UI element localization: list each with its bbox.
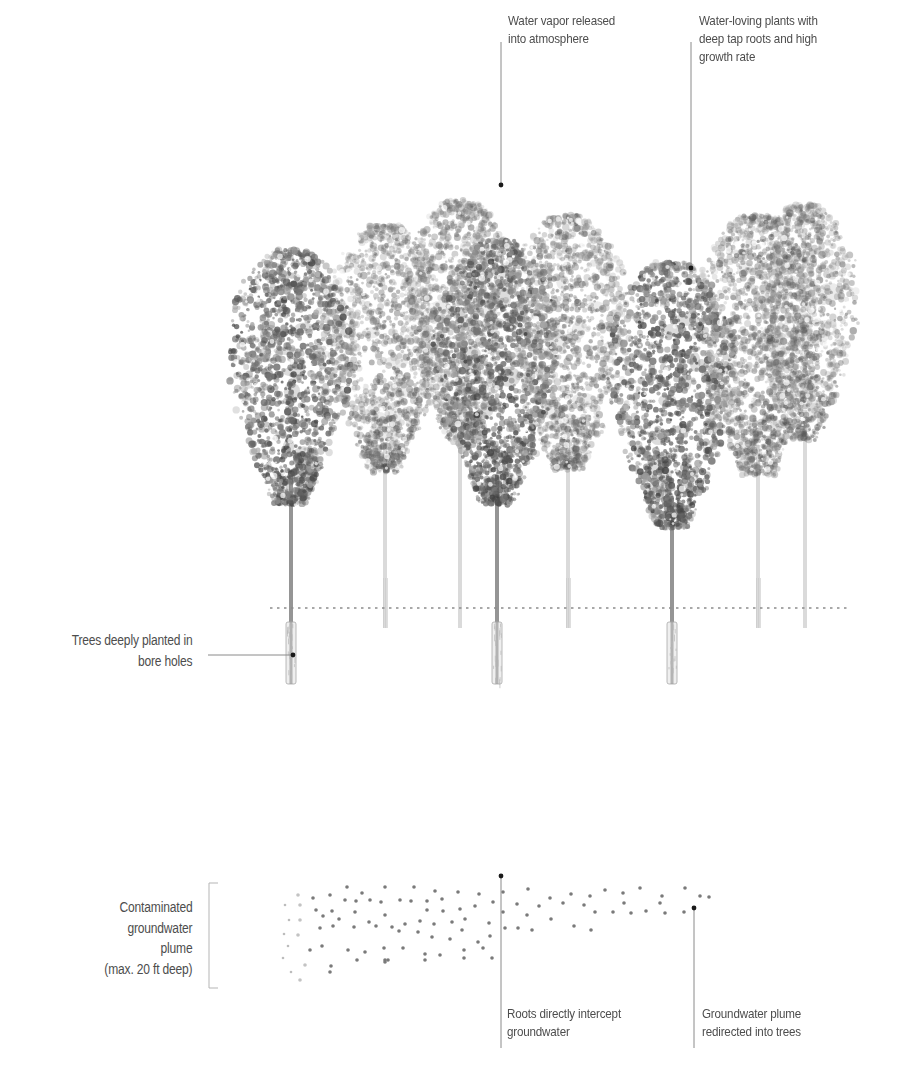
- groundwater-dot: [603, 888, 607, 892]
- leader-water-loving-plants: [689, 42, 694, 270]
- label-line: Water-loving plants with: [699, 12, 818, 30]
- groundwater-dot: [401, 946, 405, 950]
- groundwater-dot: [501, 910, 505, 914]
- groundwater-dot: [355, 958, 359, 962]
- label-water-vapor: Water vapor released into atmosphere: [508, 12, 615, 48]
- label-line: Trees deeply planted in: [71, 630, 192, 651]
- groundwater-dot: [367, 920, 371, 924]
- leader-dot-icon: [499, 183, 504, 188]
- groundwater-dot: [682, 910, 686, 914]
- groundwater-dot: [663, 911, 667, 915]
- groundwater-dot: [473, 904, 477, 908]
- groundwater-dot: [382, 946, 386, 950]
- groundwater-dot: [707, 895, 711, 899]
- groundwater-dot: [390, 925, 394, 929]
- label-line: Groundwater plume: [702, 1005, 801, 1023]
- groundwater-dot: [481, 946, 485, 950]
- label-contaminated-plume: Contaminated groundwater plume (max. 20 …: [104, 897, 192, 979]
- groundwater-dot: [462, 956, 466, 960]
- tree: [226, 247, 358, 623]
- groundwater-dot: [622, 901, 626, 905]
- groundwater-dot: [476, 940, 480, 944]
- foreground-trees: [226, 238, 739, 622]
- groundwater-dot: [621, 891, 625, 895]
- groundwater-dot: [561, 901, 565, 905]
- groundwater-dot: [629, 911, 633, 915]
- tree: [606, 259, 739, 622]
- groundwater-dot: [363, 950, 367, 954]
- groundwater-dot: [318, 926, 322, 930]
- groundwater-dot: [412, 885, 416, 889]
- groundwater-dot: [589, 928, 593, 932]
- groundwater-dot: [683, 886, 687, 890]
- groundwater-dot: [423, 952, 427, 956]
- groundwater-dot: [383, 885, 387, 889]
- groundwater-dot: [321, 914, 325, 918]
- leader-dot-icon: [291, 653, 296, 658]
- groundwater-dot: [440, 897, 444, 901]
- label-line: (max. 20 ft deep): [104, 959, 192, 980]
- groundwater-dot: [296, 893, 300, 897]
- groundwater-dot: [314, 908, 318, 912]
- leader-dot-icon: [692, 906, 697, 911]
- groundwater-dot: [458, 907, 462, 911]
- groundwater-dot: [644, 909, 648, 913]
- groundwater-dot: [432, 922, 436, 926]
- groundwater-dot: [515, 902, 519, 906]
- leader-dot-icon: [689, 266, 694, 271]
- label-line: Contaminated: [104, 897, 192, 918]
- groundwater-dot: [501, 890, 505, 894]
- leader-lines: [208, 42, 696, 1048]
- groundwater-dot: [477, 892, 481, 896]
- groundwater-dot: [638, 886, 642, 890]
- groundwater-dot: [383, 913, 387, 917]
- groundwater-dot: [491, 900, 495, 904]
- groundwater-dot: [298, 903, 302, 907]
- groundwater-dot: [488, 934, 492, 938]
- groundwater-dot: [456, 890, 460, 894]
- groundwater-dot: [398, 898, 402, 902]
- label-roots-intercept: Roots directly intercept groundwater: [507, 1005, 621, 1041]
- groundwater-dot: [330, 909, 334, 913]
- label-line: into atmosphere: [508, 30, 615, 48]
- groundwater-dot: [516, 926, 520, 930]
- groundwater-dot: [298, 978, 302, 982]
- groundwater-dot: [611, 910, 615, 914]
- groundwater-dot: [438, 953, 442, 957]
- groundwater-dot: [487, 921, 491, 925]
- groundwater-dot: [416, 930, 420, 934]
- groundwater-dot: [298, 918, 302, 922]
- label-line: growth rate: [699, 48, 818, 66]
- groundwater-dot: [328, 970, 332, 974]
- groundwater-dot: [549, 917, 553, 921]
- groundwater-dot: [379, 900, 383, 904]
- groundwater-dot: [526, 887, 530, 891]
- bore-holes: [286, 622, 677, 688]
- groundwater-dot: [569, 892, 573, 896]
- groundwater-dot: [303, 963, 307, 967]
- groundwater-dot: [450, 920, 454, 924]
- groundwater-dot: [462, 948, 466, 952]
- label-line: deep tap roots and high: [699, 30, 818, 48]
- label-line: redirected into trees: [702, 1023, 801, 1041]
- groundwater-dot: [331, 924, 335, 928]
- groundwater-dot: [320, 944, 324, 948]
- groundwater-dot: [329, 964, 333, 968]
- groundwater-dot: [311, 896, 315, 900]
- groundwater-dot: [343, 898, 347, 902]
- groundwater-dot: [374, 924, 378, 928]
- groundwater-dot: [593, 910, 597, 914]
- groundwater-dot: [360, 891, 364, 895]
- groundwater-dot: [530, 928, 534, 932]
- groundwater-plume-dots: [282, 885, 711, 982]
- groundwater-dot: [441, 909, 445, 913]
- groundwater-dot: [386, 958, 390, 962]
- groundwater-dot: [460, 928, 464, 932]
- groundwater-dot: [368, 898, 372, 902]
- label-line: groundwater: [104, 918, 192, 939]
- groundwater-dot: [490, 956, 494, 960]
- groundwater-dot: [525, 913, 529, 917]
- leader-bore-holes: [208, 653, 295, 658]
- background-trees: [320, 197, 860, 628]
- groundwater-dot: [572, 924, 576, 928]
